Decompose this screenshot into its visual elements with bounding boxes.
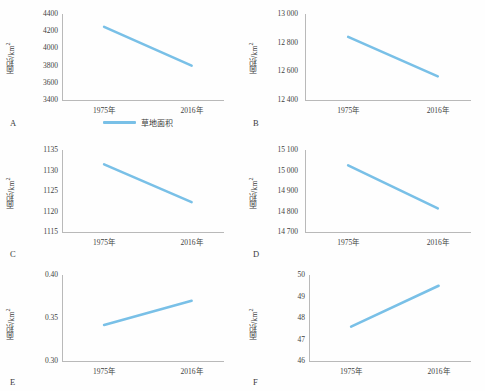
y-tick-label: 4400 — [18, 10, 58, 18]
series-line-e — [62, 275, 224, 361]
y-axis-label-e: 面积/km2 — [4, 291, 18, 357]
y-tick-label: 3800 — [18, 62, 58, 70]
x-tick-label: 2016年 — [427, 236, 449, 247]
y-tick-label: 0.40 — [18, 271, 58, 279]
y-tick-label: 14 700 — [258, 228, 298, 236]
panel-letter-b: B — [253, 118, 259, 128]
y-tick-label: 15 000 — [258, 167, 298, 175]
chart-panel-a: 面积/km2 340036003800400042004400 1975年201… — [0, 0, 242, 140]
figure-sheet: 面积/km2 340036003800400042004400 1975年201… — [0, 0, 485, 391]
y-tick-labels-d: 14 70014 80014 90015 00015 100 — [258, 140, 298, 232]
legend-swatch-icon — [103, 121, 136, 124]
x-tick-label: 1975年 — [337, 236, 359, 247]
x-tick-label: 2016年 — [181, 236, 203, 247]
chart-panel-d: 面积/km2 14 70014 80014 90015 00015 100 19… — [243, 140, 485, 265]
y-tick-label: 15 100 — [258, 146, 298, 154]
axes-d — [305, 150, 471, 232]
y-tick-label: 48 — [265, 314, 305, 322]
x-tick-label: 2016年 — [427, 104, 449, 115]
y-tick-label: 0.30 — [18, 357, 58, 365]
y-tick-label: 0.35 — [18, 314, 58, 322]
series-line-d — [305, 150, 471, 232]
axes-a — [62, 14, 224, 100]
axes-c — [62, 150, 224, 232]
y-tick-label: 46 — [265, 357, 305, 365]
x-tick-label: 2016年 — [181, 104, 203, 115]
y-axis-label-c: 面积/km2 — [4, 160, 18, 226]
x-tick-label: 2016年 — [428, 365, 450, 376]
y-tick-label: 1130 — [18, 167, 58, 175]
x-tick-label: 2016年 — [181, 365, 203, 376]
y-axis-label-a: 面积/km2 — [4, 22, 18, 94]
y-tick-labels-a: 340036003800400042004400 — [18, 0, 58, 100]
y-tick-label: 14 900 — [258, 187, 298, 195]
panel-letter-a: A — [10, 118, 16, 128]
y-tick-label: 3400 — [18, 96, 58, 104]
y-tick-label: 49 — [265, 293, 305, 301]
legend-label: 草地面积 — [141, 117, 173, 128]
legend-a: 草地面积 — [103, 117, 173, 128]
panel-letter-c: C — [10, 249, 16, 259]
axes-e — [62, 275, 224, 361]
y-tick-labels-e: 0.300.350.40 — [18, 265, 58, 361]
axes-f — [309, 275, 471, 361]
chart-panel-f: 面积/km2 4647484950 1975年2016年 F — [243, 265, 485, 391]
series-line-c — [62, 150, 224, 232]
y-tick-label: 4000 — [18, 44, 58, 52]
chart-panel-e: 面积/km2 0.300.350.40 1975年2016年 E — [0, 265, 242, 391]
y-tick-label: 3600 — [18, 79, 58, 87]
y-tick-label: 1135 — [18, 146, 58, 154]
y-tick-labels-b: 12 40012 60012 80013 000 — [258, 0, 298, 100]
y-axis-label-f: 面积/km2 — [247, 291, 261, 357]
panel-letter-e: E — [10, 377, 15, 387]
series-line-a — [62, 14, 224, 100]
y-tick-label: 12 400 — [258, 96, 298, 104]
x-tick-label: 1975年 — [93, 365, 115, 376]
y-tick-label: 1120 — [18, 208, 58, 216]
y-tick-label: 1125 — [18, 187, 58, 195]
x-tick-label: 1975年 — [93, 236, 115, 247]
y-tick-label: 12 600 — [258, 67, 298, 75]
chart-panel-c: 面积/km2 11151120112511301135 1975年2016年 C — [0, 140, 242, 265]
y-tick-label: 1115 — [18, 228, 58, 236]
chart-panel-b: 面积/km2 12 40012 60012 80013 000 1975年201… — [243, 0, 485, 140]
y-tick-label: 12 800 — [258, 39, 298, 47]
x-tick-label: 1975年 — [340, 365, 362, 376]
axes-b — [305, 14, 471, 100]
panel-letter-f: F — [253, 377, 258, 387]
y-tick-labels-f: 4647484950 — [265, 265, 305, 361]
y-tick-label: 14 800 — [258, 208, 298, 216]
series-line-f — [309, 275, 471, 361]
panel-letter-d: D — [253, 249, 259, 259]
y-tick-labels-c: 11151120112511301135 — [18, 140, 58, 232]
x-tick-label: 1975年 — [93, 104, 115, 115]
y-tick-label: 47 — [265, 336, 305, 344]
y-tick-label: 50 — [265, 271, 305, 279]
x-tick-label: 1975年 — [337, 104, 359, 115]
y-tick-label: 13 000 — [258, 10, 298, 18]
y-tick-label: 4200 — [18, 27, 58, 35]
series-line-b — [305, 14, 471, 100]
